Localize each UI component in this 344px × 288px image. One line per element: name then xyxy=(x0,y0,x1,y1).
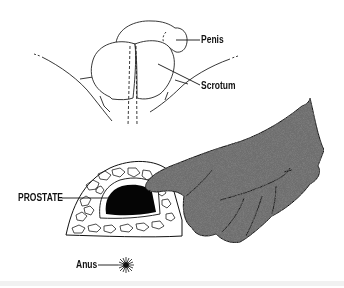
diagram-canvas: Penis Scrotum PROSTATE Anus xyxy=(0,0,344,288)
anus-star-icon xyxy=(118,257,134,273)
scrotum-label: Scrotum xyxy=(201,81,235,91)
bottom-edge-strip xyxy=(0,281,344,286)
anatomy-illustration xyxy=(0,0,344,288)
anus-label: Anus xyxy=(76,260,97,270)
penis-label: Penis xyxy=(201,35,224,45)
prostate-label: PROSTATE xyxy=(18,193,63,203)
scrotum-shape xyxy=(91,41,174,126)
